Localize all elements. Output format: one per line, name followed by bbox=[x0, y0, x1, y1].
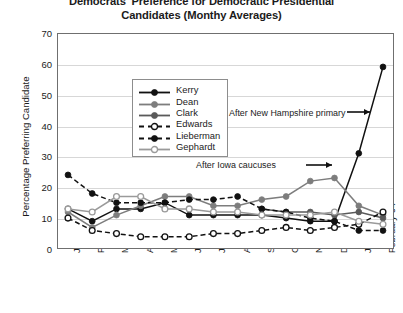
legend-label-clark: Clark bbox=[176, 107, 198, 118]
legend-item-clark[interactable]: Clark bbox=[138, 107, 220, 118]
legend-item-edwards[interactable]: Edwards bbox=[138, 118, 220, 129]
annotation-after-iowa-caucuses: After Iowa caucuses bbox=[196, 160, 276, 170]
chart-title-line-1: Democrats' Preference for Democratic Pre… bbox=[69, 0, 334, 7]
legend-item-dean[interactable]: Dean bbox=[138, 95, 220, 106]
legend-label-edwards: Edwards bbox=[176, 118, 212, 129]
legend-label-kerry: Kerry bbox=[176, 84, 198, 95]
legend-swatch-dean-icon bbox=[138, 96, 171, 107]
gridline-30 bbox=[58, 157, 393, 158]
legend-item-lieberman[interactable]: Lieberman bbox=[138, 130, 220, 141]
y-tick-50: 50 bbox=[26, 89, 52, 100]
legend-swatch-kerry-icon bbox=[138, 84, 171, 95]
chart-legend: KerryDeanClarkEdwardsLiebermanGephardt bbox=[132, 79, 228, 157]
legend-item-gephardt[interactable]: Gephardt bbox=[138, 141, 220, 152]
legend-swatch-gephardt-icon bbox=[138, 141, 171, 152]
y-tick-70: 70 bbox=[26, 28, 52, 39]
y-tick-0: 0 bbox=[26, 244, 52, 255]
chart-root: Democrats' Preference for Democratic Pre… bbox=[0, 0, 403, 313]
legend-label-dean: Dean bbox=[176, 96, 198, 107]
chart-title-line-2: Candidates (Monthy Averages) bbox=[0, 8, 403, 22]
y-tick-60: 60 bbox=[26, 58, 52, 69]
annotation-after-new-hampshire-primary: After New Hampshire primary bbox=[229, 108, 345, 118]
legend-label-lieberman: Lieberman bbox=[176, 130, 220, 141]
gridline-10 bbox=[58, 219, 393, 220]
y-tick-10: 10 bbox=[26, 213, 52, 224]
y-tick-20: 20 bbox=[26, 182, 52, 193]
gridline-20 bbox=[58, 188, 393, 189]
y-tick-30: 30 bbox=[26, 151, 52, 162]
legend-swatch-clark-icon bbox=[138, 107, 171, 118]
legend-swatch-edwards-icon bbox=[138, 118, 171, 129]
y-tick-40: 40 bbox=[26, 120, 52, 131]
gridline-60 bbox=[58, 65, 393, 66]
legend-item-kerry[interactable]: Kerry bbox=[138, 84, 220, 95]
legend-swatch-lieberman-icon bbox=[138, 130, 171, 141]
legend-label-gephardt: Gephardt bbox=[176, 141, 215, 152]
chart-title: Democrats' Preference for Democratic Pre… bbox=[0, 0, 403, 22]
